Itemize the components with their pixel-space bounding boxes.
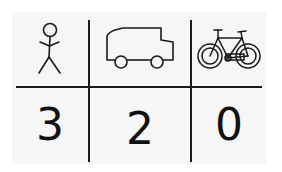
tally-table: 3 2 0 xyxy=(12,12,266,164)
count-person: 3 xyxy=(12,88,88,160)
count-value: 2 xyxy=(126,103,154,154)
count-value: 3 xyxy=(36,99,64,150)
count-bicycle: 0 xyxy=(192,88,266,160)
header-cell-truck xyxy=(90,12,190,86)
header-cell-person xyxy=(12,12,88,86)
header-cell-bicycle xyxy=(192,12,266,86)
count-truck: 2 xyxy=(90,92,190,164)
stick-figure-person-icon xyxy=(35,21,65,77)
truck-icon xyxy=(103,24,177,74)
bicycle-icon xyxy=(196,26,262,72)
count-value: 0 xyxy=(215,99,243,150)
